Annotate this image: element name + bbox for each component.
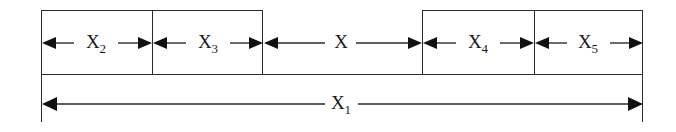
x2-label-base: X <box>86 31 100 52</box>
x1-label-base: X <box>331 92 345 113</box>
dimension-x: X <box>264 31 422 52</box>
x2-label-subscript: 2 <box>100 41 107 56</box>
x3-label: X3 <box>198 31 218 56</box>
x-label: X <box>334 31 348 52</box>
x5-label: X5 <box>578 31 598 56</box>
x4-arrowhead-left <box>423 37 437 49</box>
x-label-base: X <box>334 31 348 52</box>
dimension-x2: X2 <box>42 31 152 56</box>
x4-label-base: X <box>468 31 482 52</box>
x4-arrowhead-right <box>520 37 534 49</box>
x4-label-subscript: 4 <box>482 41 489 56</box>
x3-label-subscript: 3 <box>212 41 219 56</box>
x3-arrowhead-right <box>249 37 263 49</box>
dimension-x4: X4 <box>423 31 534 56</box>
right-box-group <box>422 10 643 74</box>
x1-label-subscript: 1 <box>345 102 352 117</box>
x2-arrowhead-left <box>42 37 56 49</box>
dimension-diagram: X2 X3 X <box>0 0 676 132</box>
x3-label-base: X <box>198 31 212 52</box>
dimension-x3: X3 <box>153 31 263 56</box>
x3-arrowhead-left <box>153 37 167 49</box>
x1-arrowhead-right <box>628 97 643 111</box>
x-arrowhead-right <box>408 37 422 49</box>
x1-arrowhead-left <box>42 97 57 111</box>
x1-label: X1 <box>331 92 351 117</box>
left-box-group <box>41 10 263 74</box>
x2-label: X2 <box>86 31 106 56</box>
x4-label: X4 <box>468 31 489 56</box>
x2-arrowhead-right <box>138 37 152 49</box>
x5-label-subscript: 5 <box>592 41 599 56</box>
x5-label-base: X <box>578 31 592 52</box>
dimension-x1-overall: X1 <box>42 92 643 117</box>
x5-arrowhead-right <box>629 37 643 49</box>
dimension-x5: X5 <box>535 31 643 56</box>
x-arrowhead-left <box>264 37 278 49</box>
x5-arrowhead-left <box>535 37 549 49</box>
diagram-canvas: X2 X3 X <box>0 0 676 132</box>
